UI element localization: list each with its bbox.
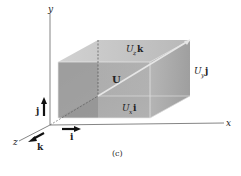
component-x-unit: i <box>133 103 137 113</box>
y-axis-label: y <box>47 4 54 14</box>
z-axis-label: z <box>12 137 18 147</box>
vector-u-label: U <box>112 74 121 85</box>
x-axis <box>50 123 224 125</box>
unit-vector-i-label: i <box>70 132 74 142</box>
unit-vector-i-arrowhead <box>74 126 81 132</box>
component-z-unit: k <box>137 44 144 54</box>
unit-vector-j-label: j <box>35 106 39 116</box>
x-axis-label: x <box>226 118 231 128</box>
unit-vector-k-label: k <box>37 142 44 152</box>
component-y-unit: j <box>204 66 208 76</box>
box-left-panel <box>58 62 98 118</box>
component-y-label: U y j <box>194 66 208 79</box>
figure-caption: (c) <box>112 149 123 158</box>
vector-diagram: y x z j i k U U z k U y j U <box>0 0 241 176</box>
unit-vector-j-arrowhead <box>41 97 47 104</box>
